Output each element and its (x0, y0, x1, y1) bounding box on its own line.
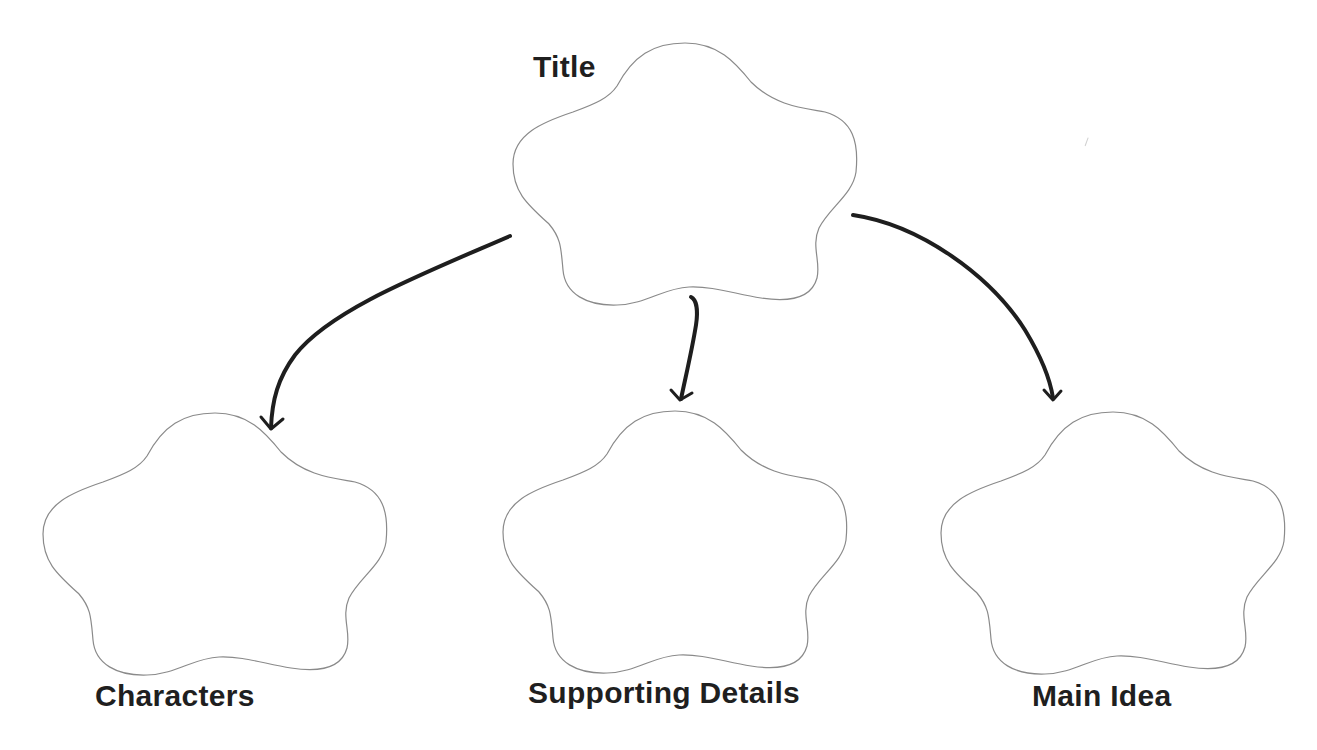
label-main-idea: Main Idea (1032, 681, 1171, 711)
label-characters: Characters (95, 681, 255, 711)
cloud-characters (43, 413, 387, 675)
cloud-main-idea (941, 412, 1285, 674)
arrow-title-to-characters (261, 236, 510, 429)
label-title: Title (533, 52, 596, 82)
graphic-organizer-canvas: Title Characters Supporting Details Main… (0, 0, 1317, 750)
arrow-title-to-main-idea (853, 215, 1061, 400)
arrow-title-to-supporting-details (671, 297, 697, 400)
diagram-svg (0, 0, 1317, 750)
cloud-supporting-details (503, 411, 847, 673)
label-supporting-details: Supporting Details (528, 678, 800, 708)
